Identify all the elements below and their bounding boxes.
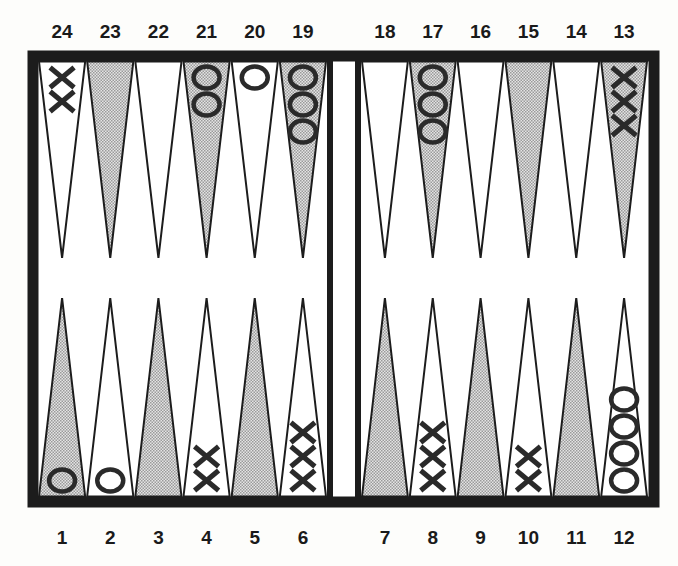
point-label-13: 13 — [614, 21, 635, 42]
bar-left-edge — [327, 56, 333, 502]
point-label-8: 8 — [427, 527, 438, 548]
point-label-12: 12 — [614, 527, 635, 548]
point-label-21: 21 — [196, 21, 218, 42]
point-label-9: 9 — [475, 527, 486, 548]
point-label-22: 22 — [148, 21, 169, 42]
point-label-5: 5 — [249, 527, 260, 548]
point-label-2: 2 — [105, 527, 116, 548]
point-label-3: 3 — [153, 527, 164, 548]
point-label-19: 19 — [292, 21, 313, 42]
point-label-7: 7 — [380, 527, 391, 548]
bottom-point-labels: 123456789101112 — [57, 527, 635, 548]
backgammon-board: 242322212019181716151413 123456789101112 — [0, 0, 678, 566]
point-label-23: 23 — [100, 21, 121, 42]
point-label-11: 11 — [566, 527, 587, 548]
point-label-20: 20 — [244, 21, 265, 42]
point-label-15: 15 — [518, 21, 540, 42]
point-label-18: 18 — [374, 21, 395, 42]
point-label-17: 17 — [422, 21, 443, 42]
bar-right-edge — [355, 56, 361, 502]
point-label-1: 1 — [57, 527, 68, 548]
point-label-6: 6 — [298, 527, 309, 548]
bar[interactable] — [333, 61, 355, 497]
point-label-24: 24 — [52, 21, 74, 42]
point-label-16: 16 — [470, 21, 491, 42]
point-label-4: 4 — [201, 527, 212, 548]
point-label-10: 10 — [518, 527, 539, 548]
top-point-labels: 242322212019181716151413 — [52, 21, 635, 42]
point-label-14: 14 — [566, 21, 588, 42]
